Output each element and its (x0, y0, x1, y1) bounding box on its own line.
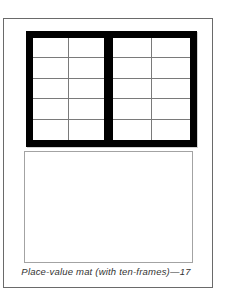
ten-frame-cell (113, 58, 152, 78)
caption: Place-value mat (with ten-frames)—17 (4, 266, 208, 277)
ten-frames-panel (26, 31, 197, 147)
ten-frame-cell (113, 120, 152, 140)
ten-frame-cell (113, 38, 152, 58)
ten-frame-cell (69, 120, 105, 140)
ten-frame-cell (152, 79, 191, 99)
ten-frame-cell (33, 58, 69, 78)
ten-frame-cell (69, 58, 105, 78)
ten-frame-cell (152, 120, 191, 140)
ten-frame-cell (69, 38, 105, 58)
page: Place-value mat (with ten-frames)—17 (0, 0, 225, 298)
ten-frame-cell (33, 120, 69, 140)
work-area (24, 151, 193, 263)
ten-frame-cell (152, 38, 191, 58)
ten-frame-cell (152, 58, 191, 78)
ten-frame-right (113, 38, 190, 140)
ten-frame-cell (33, 99, 69, 119)
ten-frame-cell (69, 79, 105, 99)
ten-frame-cell (69, 99, 105, 119)
ten-frame-cell (113, 79, 152, 99)
ten-frame-cell (152, 99, 191, 119)
ten-frame-cell (33, 38, 69, 58)
frame-divider (104, 38, 113, 140)
page-border: Place-value mat (with ten-frames)—17 (3, 18, 213, 288)
ten-frame-left (33, 38, 104, 140)
ten-frame-cell (33, 79, 69, 99)
ten-frame-cell (113, 99, 152, 119)
